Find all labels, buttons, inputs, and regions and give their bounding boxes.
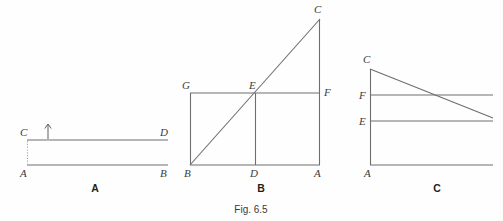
vertex-label-c-A: A [363,167,371,179]
vertex-label-c-E: E [358,115,366,127]
vertex-label-b-B: B [184,167,191,179]
panel-b-group: C G E F B D A B [182,3,331,194]
vertex-label-b-E: E [248,79,256,91]
up-arrow-icon [45,124,51,139]
vertex-label-c-C: C [363,53,371,65]
vertex-label-a-D: D [159,126,168,138]
segment-C-diagonal [370,69,493,118]
vertex-label-b-A: A [313,167,321,179]
figure-caption: Fig. 6.5 [234,204,268,215]
panel-c-group: C F E A C [358,53,493,194]
vertex-label-c-F: F [358,89,366,101]
vertex-label-a-C: C [20,126,28,138]
vertex-label-b-C: C [314,3,322,15]
panel-a-group: C D A B A [19,124,168,194]
vertex-label-b-G: G [182,79,190,91]
panel-label-c: C [433,182,441,194]
figure-container: C D A B A C G E F B D A B [0,0,503,221]
vertex-label-a-A: A [19,167,27,179]
panel-label-a: A [91,182,99,194]
panel-label-b: B [257,182,265,194]
vertex-label-b-F: F [323,86,331,98]
vertex-label-b-D: D [249,167,258,179]
figure-svg: C D A B A C G E F B D A B [0,0,503,221]
vertex-label-a-B: B [160,167,167,179]
